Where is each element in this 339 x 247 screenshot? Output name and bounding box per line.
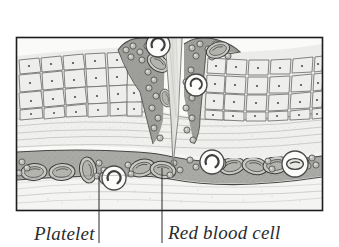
callout-platelet-upper	[146, 33, 170, 57]
label-red-blood-cell: Red blood cell	[168, 223, 281, 242]
callout-platelet-mid	[185, 74, 207, 96]
illustration-body	[16, 0, 323, 210]
epidermis-cells-right	[205, 56, 323, 121]
figure-root: Platelet Red blood cell	[0, 0, 339, 247]
callout-platelet-lower-left	[102, 166, 126, 190]
callout-red-blood-cell	[282, 151, 308, 177]
label-platelet: Platelet	[34, 224, 95, 243]
skin-cross-section-illustration	[0, 0, 339, 247]
callout-platelet-lower-right	[200, 150, 224, 174]
